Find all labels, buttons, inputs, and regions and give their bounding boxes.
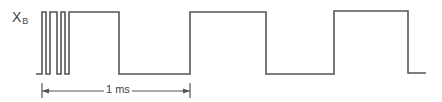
signal-subscript: B — [22, 16, 28, 26]
dimension-label: 1 ms — [104, 83, 132, 95]
signal-label: XB — [12, 9, 28, 26]
signal-waveform — [36, 11, 426, 74]
arrow-left-icon — [42, 89, 49, 94]
signal-name: X — [12, 9, 21, 25]
arrow-right-icon — [183, 89, 190, 94]
waveform-diagram — [0, 0, 442, 102]
